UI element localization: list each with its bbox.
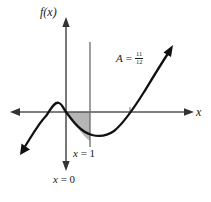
function-plot	[0, 0, 211, 202]
vertical-line-label-x0-value: = 0	[61, 173, 75, 185]
x-axis	[10, 108, 194, 116]
vertical-line-label-x1: x = 1	[73, 148, 95, 159]
area-annotation-symbol: A	[116, 53, 123, 64]
fraction-numerator: 11	[135, 51, 143, 58]
vertical-line-label-x1-var: x	[73, 147, 78, 159]
fraction-denominator: 12	[135, 58, 144, 66]
y-axis-label: f(x)	[40, 6, 57, 18]
y-axis	[62, 17, 69, 171]
area-annotation: A = 11 12	[116, 51, 143, 66]
figure-container: f(x) x A = 11 12 x = 1 x = 0	[0, 0, 211, 202]
vertical-line-label-x0: x = 0	[53, 174, 75, 185]
area-annotation-equals: =	[126, 53, 132, 64]
area-annotation-fraction: 11 12	[135, 51, 144, 66]
x-axis-label: x	[196, 106, 201, 118]
function-curve	[24, 52, 169, 148]
vertical-line-label-x0-var: x	[53, 173, 58, 185]
curve-arrow-upper-right	[164, 45, 174, 57]
vertical-line-label-x1-value: = 1	[81, 147, 95, 159]
